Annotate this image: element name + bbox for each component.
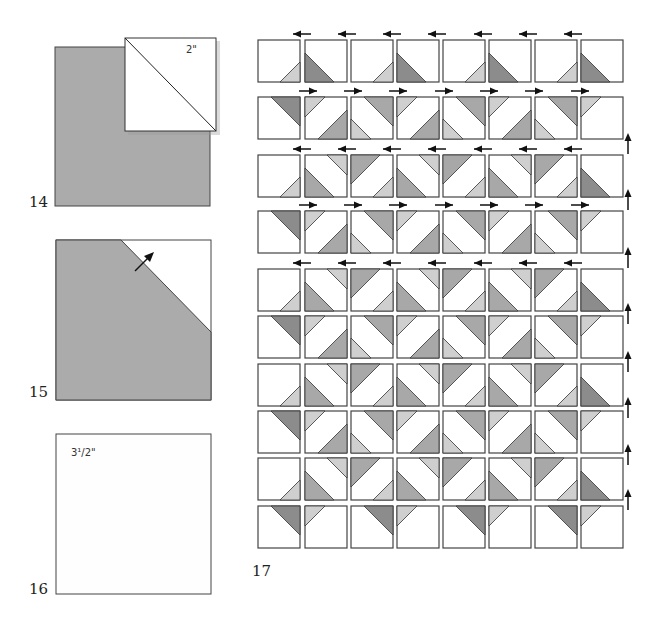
size-label-2in: 2": [186, 44, 197, 55]
arrow-right-icon: [525, 202, 543, 209]
arrow-left-icon: [428, 31, 446, 38]
arrow-left-icon: [383, 260, 401, 267]
block-r7-c2: [305, 364, 347, 406]
arrow-up-icon: [625, 489, 632, 510]
block-r9-c1: [258, 458, 300, 500]
arrow-up-icon: [625, 247, 632, 268]
block-r6-c6: [489, 316, 531, 358]
arrow-left-icon: [383, 146, 401, 153]
block-r1-c1: [258, 40, 300, 82]
block-r6-c4: [397, 316, 439, 358]
block-r4-c6: [489, 211, 531, 253]
block-r8-c8: [581, 411, 623, 453]
arrow-left-icon: [293, 260, 311, 267]
block-r9-c7: [535, 458, 577, 500]
block-r1-c8: [581, 40, 623, 82]
block-r3-c8: [581, 155, 623, 197]
block-r9-c2: [305, 458, 347, 500]
arrow-right-icon: [389, 202, 407, 209]
step-15-figure: 15: [0, 220, 240, 420]
block-r7-c1: [258, 364, 300, 406]
block-r8-c3: [351, 411, 393, 453]
block-r5-c1: [258, 269, 300, 311]
size-label-3-5in: 3¹/2": [71, 447, 96, 458]
arrow-left-icon: [293, 31, 311, 38]
arrow-right-icon: [344, 88, 362, 95]
step-17-layout: 17: [240, 0, 659, 620]
arrow-left-icon: [428, 146, 446, 153]
block-r6-c7: [535, 316, 577, 358]
block-r7-c8: [581, 364, 623, 406]
block-r3-c6: [489, 155, 531, 197]
block-r1-c3: [351, 40, 393, 82]
block-r10-c1: [258, 506, 300, 548]
arrow-left-icon: [293, 146, 311, 153]
block-r6-c3: [351, 316, 393, 358]
block-r9-c5: [443, 458, 485, 500]
arrow-right-icon: [344, 202, 362, 209]
block-r8-c2: [305, 411, 347, 453]
arrow-left-icon: [474, 260, 492, 267]
block-r8-c6: [489, 411, 531, 453]
block-r6-c1: [258, 316, 300, 358]
block-r5-c4: [397, 269, 439, 311]
block-r2-c8: [581, 97, 623, 139]
block-r4-c5: [443, 211, 485, 253]
arrow-right-icon: [435, 88, 453, 95]
arrow-right-icon: [299, 202, 317, 209]
block-r9-c6: [489, 458, 531, 500]
block-r9-c4: [397, 458, 439, 500]
step-number-15: 15: [29, 383, 48, 401]
block-r5-c3: [351, 269, 393, 311]
block-r4-c4: [397, 211, 439, 253]
block-r3-c2: [305, 155, 347, 197]
arrow-left-icon: [564, 31, 582, 38]
arrow-right-icon: [571, 202, 589, 209]
block-r8-c7: [535, 411, 577, 453]
block-r5-c5: [443, 269, 485, 311]
block-r9-c8: [581, 458, 623, 500]
arrow-left-icon: [519, 146, 537, 153]
quilt-grid-diagram: [240, 0, 659, 560]
step-number-14: 14: [29, 193, 48, 211]
arrow-left-icon: [519, 31, 537, 38]
arrow-left-icon: [338, 31, 356, 38]
block-r2-c5: [443, 97, 485, 139]
arrow-left-icon: [338, 260, 356, 267]
arrow-left-icon: [474, 146, 492, 153]
block-r10-c8: [581, 506, 623, 548]
block-r4-c2: [305, 211, 347, 253]
block-r6-c2: [305, 316, 347, 358]
step-number-17: 17: [252, 562, 271, 580]
step-number-16: 16: [29, 580, 48, 598]
block-r1-c5: [443, 40, 485, 82]
block-r1-c7: [535, 40, 577, 82]
block-r3-c4: [397, 155, 439, 197]
arrow-left-icon: [564, 146, 582, 153]
arrow-right-icon: [525, 88, 543, 95]
block-r5-c8: [581, 269, 623, 311]
block-r3-c1: [258, 155, 300, 197]
arrow-right-icon: [480, 88, 498, 95]
arrow-up-icon: [625, 444, 632, 465]
block-r5-c6: [489, 269, 531, 311]
arrow-right-icon: [480, 202, 498, 209]
block-r5-c2: [305, 269, 347, 311]
block-r10-c3: [351, 506, 393, 548]
arrow-left-icon: [383, 31, 401, 38]
arrow-up-icon: [625, 189, 632, 210]
block-r7-c4: [397, 364, 439, 406]
block-r10-c5: [443, 506, 485, 548]
arrow-left-icon: [338, 146, 356, 153]
block-r2-c1: [258, 97, 300, 139]
block-r7-c7: [535, 364, 577, 406]
step-14-diagram: [0, 0, 240, 215]
block-r4-c1: [258, 211, 300, 253]
step-16-figure: 3¹/2" 16: [0, 420, 240, 620]
block-r8-c1: [258, 411, 300, 453]
block-r3-c3: [351, 155, 393, 197]
block-r3-c5: [443, 155, 485, 197]
block-r8-c5: [443, 411, 485, 453]
block-r2-c6: [489, 97, 531, 139]
block-r10-c2: [305, 506, 347, 548]
